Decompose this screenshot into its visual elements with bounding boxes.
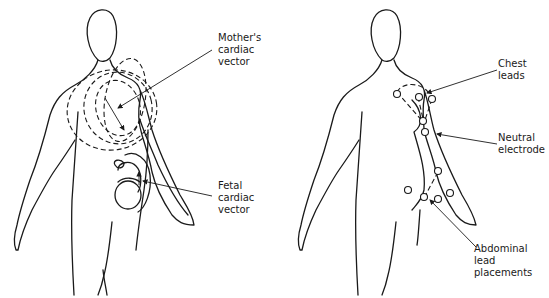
neutral-electrode-label: Neutral electrode <box>498 132 545 156</box>
mother-vector-leader <box>118 50 212 108</box>
chest-leads <box>394 85 436 125</box>
neutral-electrode <box>422 129 429 136</box>
left-figure <box>15 10 194 295</box>
abdominal-electrode <box>447 190 454 197</box>
abdominal-lead-placements-label: Abdominal lead placements <box>474 243 532 279</box>
abdominal-electrode <box>405 187 412 194</box>
chest-leads-label: Chest leads <box>498 58 527 82</box>
abdominal-electrode <box>435 196 442 203</box>
abdominal-electrode <box>421 194 428 201</box>
mother-cardiac-vector-label: Mother's cardiac vector <box>218 32 261 68</box>
fetal-vector-leader <box>143 181 212 196</box>
fetal-cardiac-vector-label: Fetal cardiac vector <box>218 180 254 216</box>
neutral-electrode-leader <box>437 134 497 144</box>
abdominal-electrode <box>435 168 442 175</box>
diagram-canvas <box>0 0 549 298</box>
chest-electrode <box>394 91 401 98</box>
right-figure <box>299 10 476 295</box>
mother-vector-arrow <box>105 98 124 130</box>
left-head <box>87 10 116 61</box>
left-torso-outline <box>15 60 98 250</box>
chest-electrode <box>420 118 427 125</box>
chest-leads-leader <box>427 70 497 93</box>
chest-electrode <box>416 94 423 101</box>
chest-electrode <box>429 96 436 103</box>
